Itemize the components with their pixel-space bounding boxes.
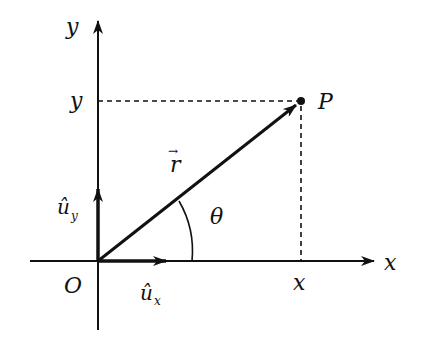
angle-theta-label: θ <box>210 204 223 229</box>
position-vector-diagram: y y x x O P → r θ ûy ûx <box>0 0 424 347</box>
ux-subscript: x <box>154 294 161 308</box>
vector-r-label: r <box>170 152 182 177</box>
uy-subscript: y <box>70 209 78 223</box>
origin-label: O <box>64 273 82 298</box>
x-projection-label: x <box>293 270 306 295</box>
y-projection-label: y <box>69 88 83 113</box>
y-axis-label: y <box>65 14 79 39</box>
point-p-dot <box>297 97 305 105</box>
unit-vector-uy-label: ûy <box>57 195 78 223</box>
angle-arc <box>179 201 192 261</box>
uy-base: û <box>57 195 70 219</box>
position-vector-r <box>98 105 296 261</box>
unit-vector-ux-label: ûx <box>140 281 161 308</box>
x-axis-label: x <box>384 250 397 275</box>
point-p-label: P <box>317 89 334 114</box>
ux-base: û <box>140 281 153 305</box>
